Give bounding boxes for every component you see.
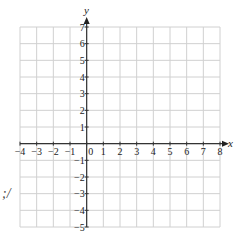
x-tick-label: 6 <box>184 146 189 157</box>
y-tick-label: −5 <box>74 222 85 233</box>
x-tick-label: 4 <box>151 146 156 157</box>
x-tick-label: 2 <box>118 146 123 157</box>
axes <box>20 17 229 227</box>
y-tick-label: 1 <box>80 122 85 133</box>
x-tick-label: 7 <box>201 146 206 157</box>
x-tick-label: 5 <box>168 146 173 157</box>
x-tick-label: 3 <box>134 146 139 157</box>
y-tick-label: 4 <box>80 72 85 83</box>
x-tick-label: −4 <box>15 146 26 157</box>
y-axis-label: y <box>83 4 89 16</box>
x-tick-label: 8 <box>218 146 223 157</box>
y-tick-label: 2 <box>80 105 85 116</box>
x-tick-label: 1 <box>101 146 106 157</box>
x-axis-label: x <box>227 137 233 149</box>
y-tick-label: −4 <box>74 205 85 216</box>
coordinate-grid: −4−3−2−1012345678 7654321−1−2−3−4−5 x y <box>0 0 245 245</box>
x-tick-labels: −4−3−2−1012345678 <box>15 146 223 157</box>
y-tick-label: −1 <box>74 155 85 166</box>
x-tick-label: −2 <box>48 146 59 157</box>
grid-lines <box>20 27 220 227</box>
y-tick-label: −2 <box>74 172 85 183</box>
x-tick-label: −3 <box>31 146 42 157</box>
y-tick-label: 7 <box>80 22 85 33</box>
y-tick-label: 5 <box>80 55 85 66</box>
y-tick-label: −3 <box>74 188 85 199</box>
y-tick-label: 3 <box>80 88 85 99</box>
y-tick-label: 6 <box>80 38 85 49</box>
cropped-text-fragment: ;/ <box>2 186 11 202</box>
x-tick-label: 0 <box>88 146 93 157</box>
